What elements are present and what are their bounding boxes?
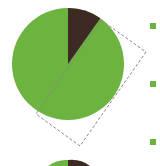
pie-chart <box>0 0 160 166</box>
legend-swatch-3 <box>150 139 156 145</box>
second-pie-partial <box>48 160 90 166</box>
legend-swatch-2 <box>150 81 156 87</box>
legend-swatch-1 <box>150 23 156 29</box>
